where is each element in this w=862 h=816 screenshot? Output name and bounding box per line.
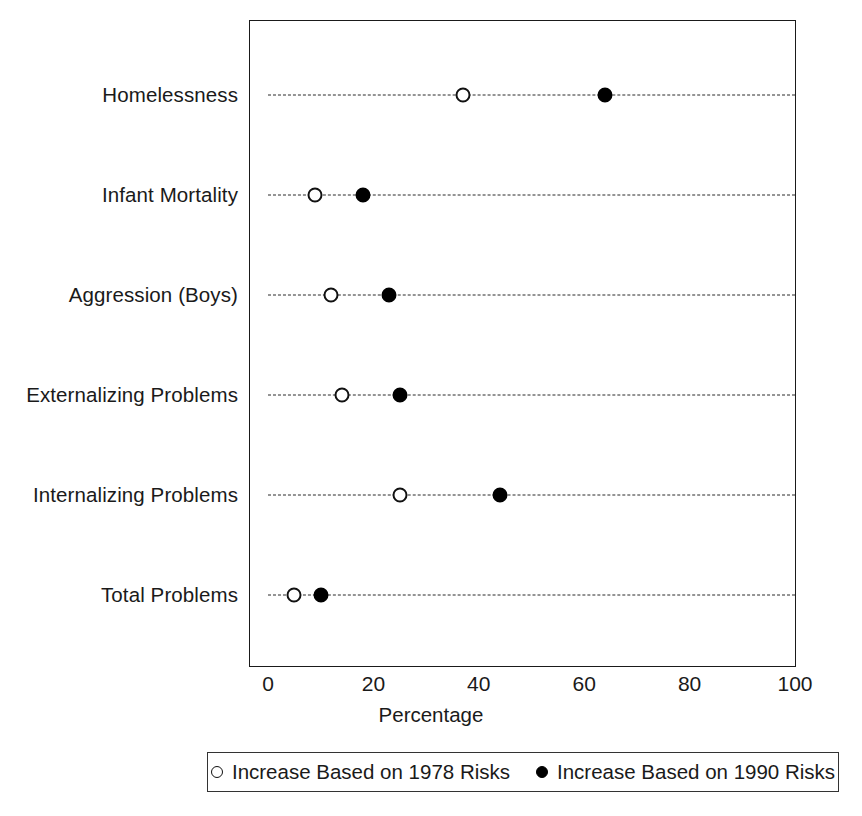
x-tick-label: 20 [362,672,385,696]
x-tick-label: 100 [777,672,812,696]
data-point-1978 [392,488,407,503]
open-circle-icon [211,766,223,778]
data-point-1990 [392,388,407,403]
row-dashed-line [268,195,795,196]
legend-label-1978: Increase Based on 1978 Risks [232,760,510,784]
data-point-1990 [598,88,613,103]
category-label: Total Problems [101,583,238,607]
legend-entry-1990: Increase Based on 1990 Risks [536,760,835,784]
plot-area-frame [249,20,796,667]
data-point-1978 [334,388,349,403]
data-point-1978 [324,288,339,303]
x-tick-label: 60 [573,672,596,696]
legend-entry-1978: Increase Based on 1978 Risks [211,760,510,784]
data-point-1990 [492,488,507,503]
category-label: Aggression (Boys) [69,283,238,307]
category-label: Internalizing Problems [33,483,238,507]
data-point-1990 [313,588,328,603]
legend-label-1990: Increase Based on 1990 Risks [557,760,835,784]
data-point-1978 [308,188,323,203]
dot-plot-chart: HomelessnessInfant MortalityAggression (… [0,0,862,816]
filled-circle-icon [536,766,548,778]
row-dashed-line [268,295,795,296]
row-dashed-line [268,595,795,596]
data-point-1978 [287,588,302,603]
category-label: Externalizing Problems [26,383,238,407]
x-axis-title: Percentage [0,703,862,727]
x-tick-label: 40 [467,672,490,696]
row-dashed-line [268,495,795,496]
category-label: Infant Mortality [102,183,238,207]
x-tick-label: 80 [678,672,701,696]
data-point-1990 [355,188,370,203]
x-tick-label: 0 [262,672,274,696]
data-point-1990 [382,288,397,303]
row-dashed-line [268,95,795,96]
category-label: Homelessness [102,83,238,107]
data-point-1978 [455,88,470,103]
chart-legend: Increase Based on 1978 Risks Increase Ba… [207,752,839,792]
